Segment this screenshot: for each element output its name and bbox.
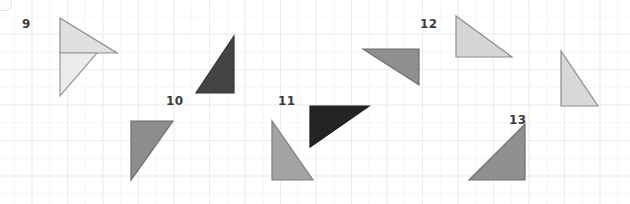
triangle-12-upper: [456, 16, 512, 57]
triangle-11-dark: [310, 106, 369, 147]
triangle-13: [469, 124, 525, 180]
label-11: 11: [278, 95, 296, 107]
triangle-12-right: [561, 51, 598, 106]
triangle-11-gray: [272, 121, 313, 180]
label-12: 12: [420, 18, 438, 30]
triangle-12-left: [363, 49, 419, 85]
triangle-shapes-layer: [0, 0, 630, 204]
triangle-9-lower: [60, 53, 97, 96]
worksheet-canvas: 910111213: [0, 0, 630, 204]
triangle-10-upper: [196, 36, 234, 93]
label-13: 13: [509, 114, 527, 126]
triangle-10-lower: [131, 121, 173, 180]
label-9: 9: [22, 18, 31, 30]
label-10: 10: [166, 95, 184, 107]
triangle-9-upper: [60, 18, 117, 53]
